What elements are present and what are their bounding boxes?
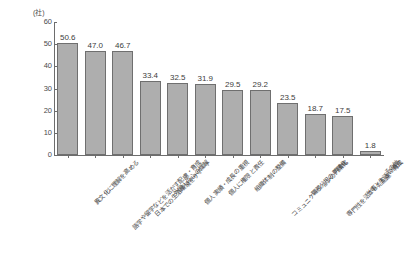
x-axis-category-label: 異文化に理解を高める (92, 158, 140, 206)
bar-slot: 18.7 (302, 22, 329, 155)
bar-slot: 32.5 (164, 22, 191, 155)
bar-value-label: 23.5 (270, 93, 305, 102)
bar[interactable] (57, 43, 78, 155)
bar[interactable] (85, 51, 106, 155)
bar[interactable] (305, 114, 326, 155)
bar[interactable] (140, 81, 161, 155)
bar-slot: 33.4 (137, 22, 164, 155)
bar[interactable] (112, 51, 133, 155)
bar-value-label: 1.8 (353, 141, 388, 150)
x-axis-category-labels: 異文化に理解を高める語学や留学などを活かす配慮・育成日本での生活環境をサポート外… (0, 156, 396, 255)
bar-slot: 17.5 (329, 22, 356, 155)
bar[interactable] (195, 84, 216, 155)
bar[interactable] (222, 90, 243, 155)
bar-slot: 29.2 (247, 22, 274, 155)
bar-slot: 23.5 (274, 22, 301, 155)
bars-layer: 50.647.046.733.432.531.929.529.223.518.7… (54, 22, 384, 156)
y-axis-unit-label: (社) (33, 7, 45, 17)
bar-value-label: 29.2 (243, 80, 278, 89)
y-tick-label: 40 (28, 61, 52, 70)
bar-value-label: 46.7 (105, 41, 140, 50)
y-tick-label: 30 (28, 84, 52, 93)
bar-slot: 1.8 (357, 22, 384, 155)
y-tick-label: 20 (28, 106, 52, 115)
bar[interactable] (167, 83, 188, 155)
bar-slot: 46.7 (109, 22, 136, 155)
bar-value-label: 17.5 (325, 106, 360, 115)
y-tick-label: 50 (28, 39, 52, 48)
bar[interactable] (332, 116, 353, 155)
bar[interactable] (250, 90, 271, 155)
y-tick-label: 10 (28, 128, 52, 137)
x-axis-category-label: 職務分担の明確化 (309, 158, 349, 198)
y-tick-label: 60 (28, 17, 52, 26)
bar[interactable] (277, 103, 298, 155)
plot-area: 0102030405060 50.647.046.733.432.531.929… (54, 22, 384, 156)
